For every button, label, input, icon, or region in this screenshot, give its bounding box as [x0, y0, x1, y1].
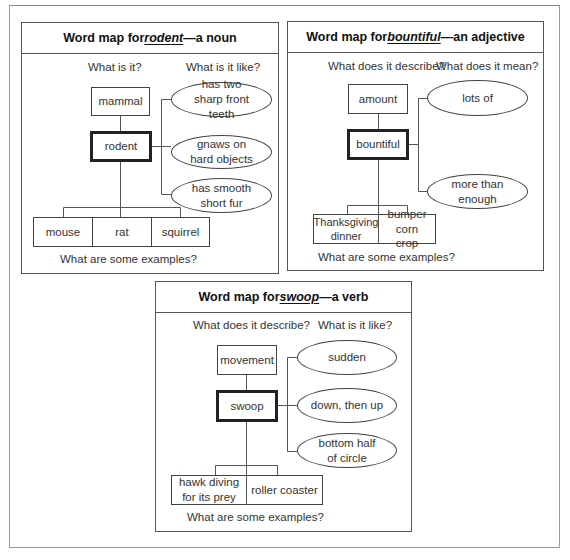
panel-title: Word map for bountiful—an adjective [288, 22, 543, 53]
category-box: mammal [91, 87, 150, 116]
example-cell: hawk diving for its prey [171, 475, 247, 505]
bottom-question: What are some examples? [60, 253, 197, 265]
keyword: swoop [280, 290, 320, 304]
example-cell: Thanksgiving dinner [313, 214, 379, 244]
quality-ellipse: bottom half of circle [297, 433, 397, 468]
word-box: bountiful [347, 129, 409, 160]
quality-ellipse: down, then up [297, 388, 397, 423]
keyword: rodent [144, 31, 183, 45]
category-box: movement [217, 345, 277, 375]
word-box: swoop [216, 390, 278, 422]
right-question: What is it like? [186, 61, 260, 73]
panel-title: Word map for rodent—a noun [22, 23, 278, 54]
quality-ellipse: has two sharp front teeth [171, 82, 272, 117]
keyword: bountiful [387, 30, 440, 44]
panel-title: Word map for swoop—a verb [156, 282, 411, 313]
category-box: amount [348, 84, 408, 114]
example-cell: roller coaster [246, 475, 323, 505]
right-question: What does it mean? [436, 60, 538, 72]
bottom-question: What are some examples? [187, 511, 324, 523]
bottom-question: What are some examples? [318, 251, 455, 263]
example-cell: rat [92, 217, 152, 247]
example-cell: mouse [33, 217, 93, 247]
example-cell: bumper corn crop [378, 214, 436, 244]
quality-ellipse: has smooth short fur [171, 178, 272, 213]
left-question: What does it describe? [193, 319, 310, 331]
right-question: What is it like? [318, 319, 392, 331]
quality-ellipse: more than enough [427, 174, 528, 209]
quality-ellipse: lots of [427, 80, 528, 116]
example-cell: squirrel [151, 217, 210, 247]
quality-ellipse: gnaws on hard objects [171, 135, 272, 169]
left-question: What is it? [88, 61, 142, 73]
word-box: rodent [90, 131, 152, 162]
left-question: What does it describe? [328, 60, 445, 72]
quality-ellipse: sudden [297, 340, 397, 375]
